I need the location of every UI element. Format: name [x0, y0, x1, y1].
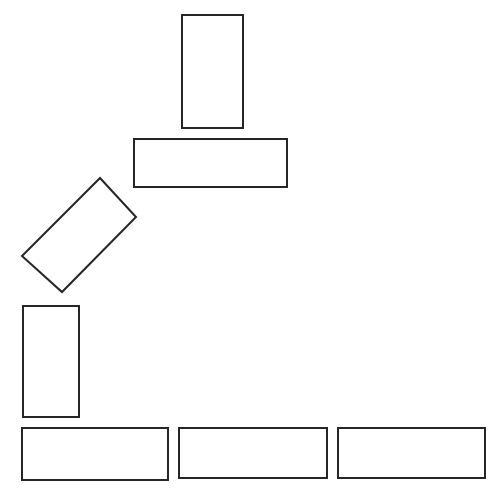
rect-bottom-right [338, 428, 485, 478]
rect-bottom-center [179, 428, 327, 478]
rect-upper-horizontal [134, 139, 287, 187]
shape-diagram [0, 0, 498, 502]
rect-left-vertical [23, 306, 79, 417]
figure-canvas [0, 0, 498, 502]
rect-top-vertical [182, 15, 243, 128]
rect-bottom-left [22, 428, 168, 480]
